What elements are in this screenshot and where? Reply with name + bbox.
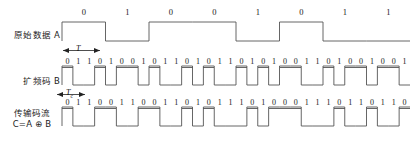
- row-label-stream-c-line2: C=A ⊕ B: [4, 119, 60, 130]
- bit-value: 1: [236, 97, 247, 108]
- bit-value: 0: [280, 56, 291, 68]
- bit-value: 1: [334, 56, 345, 67]
- bit-value: 0: [149, 7, 193, 18]
- bit-value: 1: [84, 97, 95, 108]
- row-label-stream-c: 传输码流 C=A ⊕ B: [4, 108, 60, 130]
- bit-value: 0: [203, 97, 214, 109]
- bit-value: 1: [323, 97, 334, 108]
- bit-value: 0: [367, 97, 378, 109]
- bit-value: 1: [193, 56, 204, 67]
- bit-value: 1: [367, 56, 378, 67]
- bit-value: 1: [312, 97, 323, 108]
- bit-row-data-a: 01001011: [62, 7, 410, 18]
- bit-value: 0: [116, 56, 127, 68]
- bit-value: 1: [377, 97, 388, 108]
- bit-value: 0: [236, 56, 247, 68]
- bit-value: 1: [160, 56, 171, 67]
- dsss-timing-figure: 原始数据 A 01001011 T 扩频码 B 0110100101101011…: [0, 0, 415, 150]
- bit-value: 0: [95, 56, 106, 68]
- bit-value: 1: [160, 97, 171, 108]
- bit-value: 0: [182, 97, 193, 109]
- period-label-T: T: [76, 44, 80, 53]
- bit-value: 1: [84, 56, 95, 67]
- bit-value: 1: [236, 7, 280, 18]
- bit-value: 0: [106, 97, 117, 109]
- bit-value: 1: [367, 7, 411, 18]
- row-label-stream-c-line1: 传输码流: [4, 108, 60, 119]
- bit-value: 1: [399, 56, 410, 67]
- waveform-data-a: [0, 0, 415, 150]
- bit-value: 0: [290, 97, 301, 109]
- bit-value: 0: [138, 97, 149, 109]
- bit-value: 1: [312, 56, 323, 67]
- bit-value: 0: [149, 56, 160, 68]
- bit-row-code-b: 01101001011010110101001101001001: [62, 56, 410, 67]
- bit-value: 0: [345, 56, 356, 68]
- bit-value: 1: [345, 97, 356, 108]
- bit-value: 0: [399, 97, 410, 109]
- bit-value: 0: [247, 97, 258, 109]
- bit-value: 1: [225, 97, 236, 108]
- row-label-data-a: 原始数据 A: [8, 28, 60, 40]
- bit-value: 0: [62, 97, 73, 109]
- bit-value: 0: [290, 56, 301, 68]
- bit-value: 1: [116, 97, 127, 108]
- bit-value: 0: [377, 56, 388, 68]
- bit-value: 0: [280, 7, 324, 18]
- bit-value: 1: [106, 7, 150, 18]
- bit-value: 1: [323, 7, 367, 18]
- bit-value: 1: [214, 56, 225, 67]
- bit-value: 1: [127, 97, 138, 108]
- bit-value: 0: [356, 56, 367, 68]
- bit-value: 1: [301, 97, 312, 108]
- bit-value: 1: [214, 97, 225, 108]
- waveform-stream-c: [0, 0, 415, 150]
- bit-value: 0: [280, 97, 291, 109]
- bit-value: 1: [171, 97, 182, 108]
- bit-value: 1: [356, 97, 367, 108]
- bit-value: 0: [334, 97, 345, 109]
- period-marker-T: [0, 0, 415, 150]
- bit-value: 1: [225, 56, 236, 67]
- bit-value: 0: [323, 56, 334, 68]
- bit-value: 0: [182, 56, 193, 68]
- bit-value: 1: [138, 56, 149, 67]
- bit-value: 1: [73, 56, 84, 67]
- bit-value: 0: [62, 56, 73, 68]
- bit-value: 0: [203, 56, 214, 68]
- bit-value: 0: [269, 97, 280, 109]
- bit-value: 1: [171, 56, 182, 67]
- bit-value: 1: [269, 56, 280, 67]
- bit-value: 0: [62, 7, 106, 18]
- bit-value: 1: [106, 56, 117, 67]
- bit-value: 0: [258, 56, 269, 68]
- waveform-code-b: [0, 0, 415, 150]
- bit-value: 1: [301, 56, 312, 67]
- bit-value: 1: [73, 97, 84, 108]
- row-label-code-b: 扩频码 B: [8, 74, 60, 86]
- bit-value: 0: [127, 56, 138, 68]
- bit-value: 0: [95, 97, 106, 109]
- bit-value: 0: [388, 56, 399, 68]
- bit-value: 0: [193, 7, 237, 18]
- bit-value: 0: [149, 97, 160, 109]
- bit-value: 1: [258, 97, 269, 108]
- bit-row-stream-c: 01100110011010111010001110110110: [62, 97, 410, 108]
- bit-value: 1: [388, 97, 399, 108]
- bit-value: 1: [247, 56, 258, 67]
- bit-value: 1: [193, 97, 204, 108]
- period-label-T-text: T: [76, 44, 80, 53]
- period-marker-Tc: [0, 0, 415, 150]
